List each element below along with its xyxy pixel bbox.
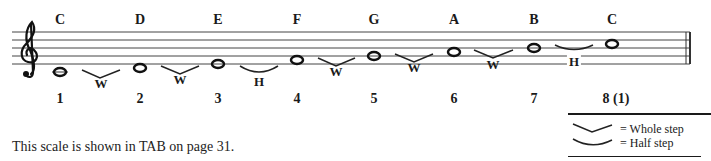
caption-text: This scale is shown in TAB on page 31.: [12, 139, 234, 155]
note-letter: F: [293, 12, 302, 28]
scale-degree: 7: [531, 91, 538, 107]
legend-half-label: = Half step: [620, 136, 673, 151]
step-label-half: H: [254, 74, 264, 90]
note-letter: B: [529, 12, 538, 28]
scale-degree: 4: [294, 91, 301, 107]
step-legend: = Whole step = Half step: [568, 113, 711, 157]
half-step-icon: [555, 45, 593, 50]
whole-step-icon: [572, 122, 618, 136]
half-step-icon: [572, 136, 618, 150]
step-label-whole: W: [95, 76, 108, 92]
note-letter: C: [55, 12, 65, 28]
note-letter: G: [369, 12, 380, 28]
note-letter: E: [213, 12, 222, 28]
scale-degree: 3: [215, 91, 222, 107]
scale-degree: 1: [57, 91, 64, 107]
scale-degree: 5: [371, 91, 378, 107]
legend-row-half: = Half step: [568, 136, 711, 152]
half-step-icon: [240, 66, 278, 72]
scale-degree: 6: [451, 91, 458, 107]
note-letter: D: [135, 12, 145, 28]
note-letter: A: [449, 12, 459, 28]
legend-rule-bottom: [568, 156, 701, 157]
step-label-whole: W: [174, 72, 187, 88]
scale-degree: 8 (1): [603, 91, 630, 107]
step-label-whole: W: [408, 60, 421, 76]
legend-whole-label: = Whole step: [620, 122, 684, 137]
note-letter: C: [607, 12, 617, 28]
legend-rule-top: [568, 113, 711, 115]
scale-degree: 2: [137, 91, 144, 107]
treble-clef-icon: [22, 22, 37, 77]
step-label-whole: W: [330, 64, 343, 80]
step-label-half: H: [567, 54, 581, 70]
step-label-whole: W: [487, 57, 500, 73]
